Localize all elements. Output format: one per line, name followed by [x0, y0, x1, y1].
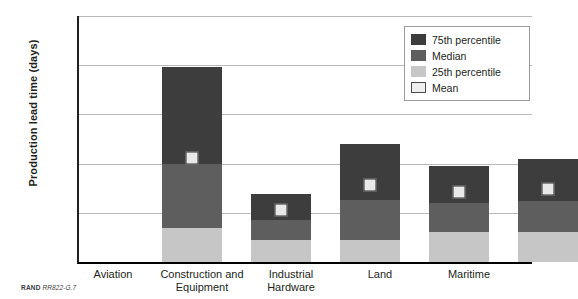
bar-segment-25th-percentile	[251, 240, 311, 262]
bar-construction-and-equipment[interactable]	[251, 194, 311, 262]
y-axis-title: Production lead time (days)	[22, 0, 44, 248]
bar-segment-75th-percentile	[162, 67, 222, 163]
footer-figure-code: RR822-G.7	[42, 284, 76, 291]
legend-label-75th-percentile: 75th percentile	[432, 34, 501, 46]
bar-land[interactable]	[429, 166, 489, 262]
legend-label-median: Median	[432, 50, 466, 62]
mean-marker	[186, 151, 199, 164]
x-label-maritime: Maritime	[414, 268, 524, 281]
legend-item-median: Median	[411, 48, 523, 63]
bar-segment-median	[429, 203, 489, 233]
mean-marker	[364, 179, 377, 192]
bar-maritime[interactable]	[518, 159, 578, 262]
legend-label-25th-percentile: 25th percentile	[432, 66, 501, 78]
bar-segment-median	[162, 164, 222, 228]
bar-segment-25th-percentile	[162, 228, 222, 262]
bar-aviation[interactable]	[162, 67, 222, 262]
bar-segment-median	[251, 220, 311, 241]
bar-segment-median	[518, 201, 578, 232]
mean-marker	[275, 203, 288, 216]
legend-swatch-mean	[411, 82, 426, 93]
bar-segment-25th-percentile	[340, 240, 400, 262]
mean-marker	[542, 183, 555, 196]
gridline-250	[79, 16, 532, 17]
legend-swatch-75th-percentile	[411, 34, 426, 45]
figure-source-note: RAND RR822-G.7	[21, 284, 76, 291]
bar-industrial-hardware[interactable]	[340, 144, 400, 262]
bar-segment-median	[340, 200, 400, 240]
legend-swatch-25th-percentile	[411, 66, 426, 77]
legend-swatch-median	[411, 50, 426, 61]
gridline-150	[79, 114, 532, 115]
legend-item-25th-percentile: 25th percentile	[411, 64, 523, 79]
legend-item-mean: Mean	[411, 80, 523, 95]
bar-segment-25th-percentile	[518, 232, 578, 262]
legend-label-mean: Mean	[432, 82, 458, 94]
mean-marker	[453, 186, 466, 199]
legend: 75th percentile Median 25th percentile M…	[404, 26, 530, 101]
footer-org: RAND	[21, 284, 41, 291]
legend-item-75th-percentile: 75th percentile	[411, 32, 523, 47]
bar-segment-25th-percentile	[429, 232, 489, 262]
